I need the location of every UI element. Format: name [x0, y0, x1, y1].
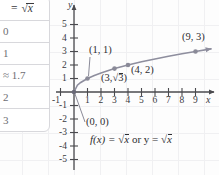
point-3-sqrt3	[112, 66, 117, 71]
point-1-1	[85, 76, 90, 81]
annot-open-paren: (3,	[101, 72, 112, 83]
x-axis-label: x	[206, 94, 210, 105]
eq-left-side: f(x) =	[90, 133, 115, 145]
annotation-point-4-2: (4, 2)	[131, 64, 154, 75]
eq-radical-group-1: √x	[118, 133, 129, 145]
x-tick-label: 1	[85, 95, 90, 105]
y-axis-label: y	[68, 0, 72, 10]
y-tick-label: -4	[59, 141, 67, 151]
y-tick-label: -1	[59, 100, 67, 110]
point-4-2	[126, 63, 131, 68]
table-row: 2	[0, 87, 49, 109]
annot-close-paren: )	[123, 72, 127, 83]
eq-radical-group-2: √x	[161, 133, 172, 145]
eq-connector: or y =	[132, 133, 158, 145]
y-tick-label: 4	[62, 33, 67, 43]
y-tick-label: -3	[59, 127, 67, 137]
eq-radical-bar-2	[168, 134, 172, 135]
radical-bar	[26, 3, 33, 4]
eq-radical-bar-1	[125, 134, 129, 135]
table-header-label: = √x	[11, 3, 33, 15]
x-tick-label: 9	[193, 95, 198, 105]
coordinate-plot-svg	[48, 0, 219, 175]
y-tick-label: -2	[59, 114, 67, 124]
leader-0-0	[75, 94, 85, 122]
table-cell-value: 0	[3, 26, 9, 37]
graph-panel: x y -1 1 2 3 4 5 6 7 8 9 5 4 3 2 1 -1 -2…	[48, 0, 219, 175]
x-tick-label: 4	[126, 95, 131, 105]
annotation-point-9-3: (9, 3)	[182, 31, 205, 42]
y-tick-label: 3	[62, 46, 67, 56]
table-cell-value: 1	[3, 48, 9, 59]
table-row: 3	[0, 109, 49, 131]
x-tick-label: 6	[153, 95, 158, 105]
point-9-3	[193, 49, 198, 54]
annotation-point-1-1: (1, 1)	[89, 44, 112, 55]
figure-root: = √x 0 1 ≈ 1.7 2 3	[0, 0, 219, 175]
table-cell-value: ≈ 1.7	[3, 70, 26, 81]
annot-radical-bar	[119, 73, 123, 74]
table-cell-value: 3	[3, 115, 9, 126]
y-tick-label: 2	[62, 60, 67, 70]
x-tick-label: 5	[139, 95, 144, 105]
x-tick-label: 3	[112, 95, 117, 105]
table-cell-value: 2	[3, 92, 9, 103]
value-table: = √x 0 1 ≈ 1.7 2 3	[0, 0, 50, 132]
y-tick-label: -5	[59, 154, 67, 164]
point-0-0	[72, 90, 77, 95]
function-equation: f(x) = √x or y = √x	[90, 133, 172, 145]
x-tick-label: 7	[166, 95, 171, 105]
annot-radical-group: √3	[112, 72, 123, 83]
annotation-point-0-0: (0, 0)	[86, 116, 109, 127]
y-tick-label: 1	[62, 73, 67, 83]
x-tick-label: 8	[180, 95, 185, 105]
table-row: 1	[0, 43, 49, 65]
axes-group	[56, 5, 214, 170]
table-header-row: = √x	[0, 0, 49, 21]
leader-1-1	[89, 57, 91, 76]
header-equals: =	[11, 2, 18, 14]
x-tick-label: 2	[99, 95, 104, 105]
y-tick-label: 5	[62, 19, 67, 29]
header-radical-group: √x	[20, 3, 32, 15]
table-row: 0	[0, 21, 49, 43]
table-row: ≈ 1.7	[0, 65, 49, 87]
annotation-point-3-sqrt3: (3,√3)	[101, 72, 127, 83]
